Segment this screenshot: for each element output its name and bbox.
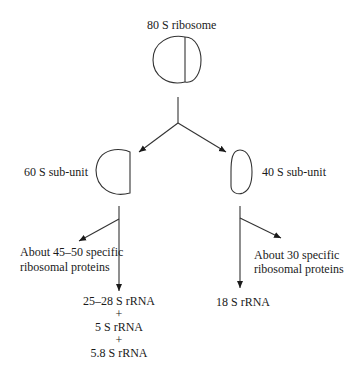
- rrna-60s-line3: 5.8 S rRNA: [69, 346, 169, 360]
- proteins-60s-line2: ribosomal proteins: [20, 260, 110, 274]
- arrow-60s-proteins: [79, 219, 119, 241]
- ribosome-80s-shape: [153, 36, 201, 82]
- proteins-40s-line1: About 30 specific: [254, 248, 339, 262]
- rrna-40s-line1: 18 S rRNA: [216, 295, 270, 309]
- arrow-40s-proteins: [240, 218, 281, 238]
- ribosome-80s-label: 80 S ribosome: [147, 18, 216, 32]
- proteins-60s-line1: About 45–50 specific: [20, 245, 123, 259]
- rrna-60s-plus1: +: [69, 307, 169, 321]
- rrna-60s-line2: 5 S rRNA: [69, 320, 169, 334]
- proteins-40s-line2: ribosomal proteins: [254, 262, 344, 276]
- rrna-60s-line1: 25–28 S rRNA: [69, 294, 169, 308]
- subunit-60s-shape: [96, 150, 130, 195]
- arrow-to-60s: [139, 123, 178, 152]
- subunit-40s-label: 40 S sub-unit: [262, 165, 326, 179]
- subunit-40s-shape: [231, 150, 252, 194]
- subunit-60s-label: 60 S sub-unit: [24, 165, 88, 179]
- rrna-60s-plus2: +: [69, 333, 169, 347]
- diagram-canvas: [0, 0, 355, 368]
- arrow-to-40s: [178, 123, 226, 152]
